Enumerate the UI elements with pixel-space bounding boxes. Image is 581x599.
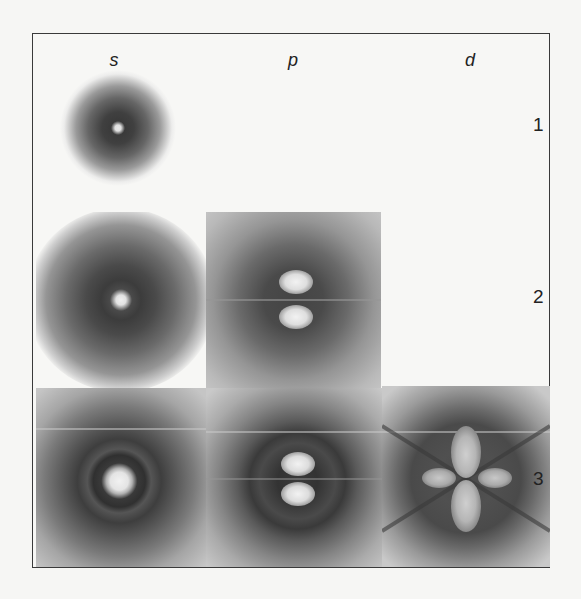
- 2s-density-cloud: [36, 212, 206, 388]
- orbital-2s: [36, 212, 206, 388]
- 3d-top-lobe: [451, 426, 481, 478]
- 3p-scan-line: [206, 431, 382, 433]
- orbital-2p: [206, 212, 381, 388]
- row-label-2: 2: [533, 286, 544, 308]
- 2p-lower-lobe: [279, 305, 313, 329]
- row-label-3: 3: [533, 468, 544, 490]
- orbital-3d: [382, 386, 550, 567]
- 3d-bottom-lobe: [451, 480, 481, 532]
- 3p-upper-lobe: [281, 452, 315, 476]
- 3s-scan-line: [36, 428, 206, 430]
- column-label-d: d: [465, 50, 475, 71]
- orbital-3s: [36, 388, 206, 567]
- 3p-nodal-plane: [206, 478, 382, 480]
- 1s-density-cloud: [60, 70, 176, 186]
- column-label-s: s: [110, 50, 119, 71]
- orbital-3p: [206, 388, 382, 567]
- 2p-upper-lobe: [279, 270, 313, 294]
- 3d-left-lobe: [422, 468, 456, 488]
- orbital-1s: [60, 70, 176, 186]
- 3p-lower-lobe: [281, 482, 315, 506]
- column-label-p: p: [288, 50, 298, 71]
- 2p-nodal-plane: [206, 299, 381, 301]
- row-label-1: 1: [533, 114, 544, 136]
- 3d-right-lobe: [478, 468, 512, 488]
